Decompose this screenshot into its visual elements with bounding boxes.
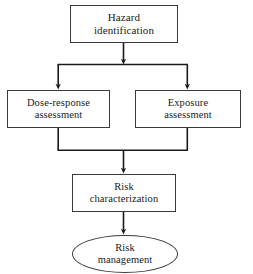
node-exposure-assessment-label: Exposure assessment <box>162 97 214 122</box>
node-risk-management-label: Risk management <box>96 242 155 267</box>
node-dose-response-assessment: Dose-response assessment <box>7 90 110 128</box>
node-hazard-identification: Hazard identification <box>70 5 178 43</box>
node-risk-characterization-label: Risk characterization <box>88 181 161 206</box>
node-hazard-identification-label: Hazard identification <box>92 11 156 37</box>
diagram-canvas: Hazard identification Dose-response asse… <box>0 0 253 274</box>
node-exposure-assessment: Exposure assessment <box>135 90 241 128</box>
node-risk-characterization: Risk characterization <box>72 174 176 212</box>
node-risk-management: Risk management <box>72 235 178 273</box>
node-dose-response-assessment-label: Dose-response assessment <box>25 97 92 122</box>
